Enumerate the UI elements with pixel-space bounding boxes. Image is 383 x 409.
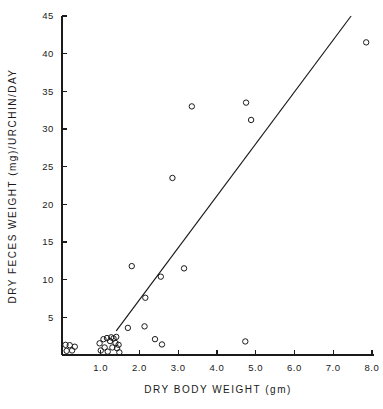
data-point-marker: [189, 104, 194, 109]
y-tick-label: 30: [42, 123, 54, 134]
x-tick-label: 6.0: [287, 362, 302, 373]
y-axis-tick-labels: 51015202530354045: [42, 10, 54, 322]
y-tick-label: 35: [42, 86, 54, 97]
data-point-marker: [125, 325, 130, 330]
x-tick-label: 2.0: [132, 362, 147, 373]
x-tick-label: 8.0: [364, 362, 379, 373]
data-point-marker: [101, 336, 106, 341]
data-point-marker: [129, 263, 134, 268]
y-axis-title: DRY FECES WEIGHT (mg)/URCHIN/DAY: [7, 68, 18, 303]
data-point-marker: [64, 348, 69, 353]
x-tick-label: 1.0: [93, 362, 108, 373]
x-tick-label: 3.0: [171, 362, 186, 373]
data-point-marker: [363, 40, 368, 45]
data-point-marker: [158, 274, 163, 279]
y-tick-label: 10: [42, 274, 54, 285]
data-point-marker: [181, 266, 186, 271]
scatter-plot-figure: 1.02.03.04.05.06.07.08.0 510152025303540…: [0, 0, 383, 409]
data-point-marker: [248, 117, 253, 122]
regression-fit-line: [116, 16, 351, 331]
axes: [62, 16, 374, 355]
y-tick-label: 20: [42, 199, 54, 210]
data-point-marker: [170, 175, 175, 180]
data-point-marker: [142, 324, 147, 329]
data-point-marker: [159, 342, 164, 347]
y-tick-label: 45: [42, 10, 54, 21]
plot-canvas: 1.02.03.04.05.06.07.08.0 510152025303540…: [0, 0, 383, 409]
x-axis-title: DRY BODY WEIGHT (gm): [144, 384, 292, 395]
y-tick-label: 5: [48, 312, 54, 323]
data-point-marker: [152, 336, 157, 341]
data-point-marker: [243, 100, 248, 105]
y-tick-label: 40: [42, 48, 54, 59]
data-point-marker: [72, 344, 77, 349]
data-point-marker: [69, 348, 74, 353]
x-tick-label: 7.0: [326, 362, 341, 373]
x-tick-label: 4.0: [209, 362, 224, 373]
data-point-marker: [143, 295, 148, 300]
data-point-marker: [105, 349, 110, 354]
regression-line: [116, 16, 351, 331]
tick-marks: [62, 16, 372, 355]
x-axis-tick-labels: 1.02.03.04.05.06.07.08.0: [93, 362, 379, 373]
data-point-marker: [243, 339, 248, 344]
y-tick-label: 15: [42, 236, 54, 247]
data-point-marker: [117, 350, 122, 355]
y-tick-label: 25: [42, 161, 54, 172]
x-tick-label: 5.0: [248, 362, 263, 373]
